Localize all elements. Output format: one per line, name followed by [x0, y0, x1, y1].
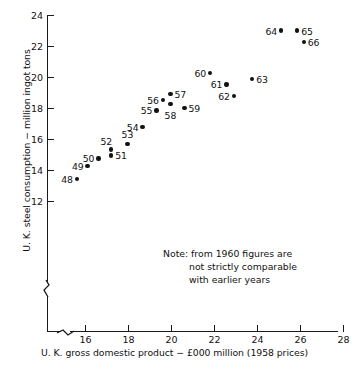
data-point — [85, 164, 89, 168]
data-point-label: 58 — [165, 110, 177, 121]
data-point-label: 56 — [147, 94, 159, 105]
data-point-label: 50 — [83, 153, 95, 164]
data-point-label: 60 — [195, 68, 207, 79]
data-point — [168, 92, 172, 96]
note-line-3: with earlier years — [163, 273, 297, 286]
x-tick — [171, 325, 172, 332]
x-tick-label: 18 — [116, 334, 142, 345]
x-tick-label: 26 — [288, 334, 314, 345]
x-tick-label: 20 — [159, 334, 185, 345]
data-point — [279, 28, 283, 32]
data-point — [182, 106, 186, 110]
x-tick — [257, 325, 258, 332]
data-point — [109, 153, 113, 157]
x-axis-label: U. K. gross domestic product − £000 mill… — [0, 347, 349, 358]
y-tick — [48, 77, 54, 78]
data-point-label: 66 — [308, 37, 320, 48]
y-tick — [48, 108, 54, 109]
y-axis-label: U. K. steel consumption − million ingot … — [21, 21, 32, 281]
data-point — [232, 94, 236, 98]
y-tick — [48, 201, 54, 202]
chart-note: Note: from 1960 figures are not strictly… — [163, 247, 297, 286]
y-axis-lower-stub — [47, 296, 48, 332]
data-point — [302, 40, 306, 44]
data-point-label: 65 — [301, 25, 313, 36]
data-point — [75, 177, 79, 181]
y-tick — [48, 170, 54, 171]
x-tick-label: 28 — [331, 334, 354, 345]
data-point — [140, 125, 144, 129]
data-point — [161, 98, 165, 102]
data-point-label: 57 — [174, 89, 186, 100]
data-point — [224, 82, 228, 86]
data-point-label: 61 — [211, 79, 223, 90]
y-tick — [48, 46, 54, 47]
data-point-label: 59 — [188, 102, 200, 113]
x-tick — [214, 325, 215, 332]
data-point — [295, 28, 299, 32]
data-point-label: 51 — [115, 150, 127, 161]
data-point-label: 64 — [266, 25, 278, 36]
data-point-label: 52 — [100, 136, 112, 147]
data-point — [96, 156, 100, 160]
y-tick — [48, 15, 54, 16]
y-tick — [48, 139, 54, 140]
note-line-1: Note: from 1960 figures are — [163, 248, 292, 259]
y-axis-line — [47, 15, 48, 282]
y-tick-label: 24 — [21, 10, 43, 21]
x-tick-label: 16 — [73, 334, 99, 345]
x-tick — [300, 325, 301, 332]
note-line-2: not strictly comparable — [163, 260, 297, 273]
x-tick-label: 22 — [202, 334, 228, 345]
data-point — [208, 71, 212, 75]
x-tick — [128, 325, 129, 332]
data-point — [168, 102, 172, 106]
x-tick-label: 24 — [245, 334, 271, 345]
data-point-label: 55 — [141, 105, 153, 116]
data-point-label: 48 — [61, 174, 73, 185]
x-axis-line — [70, 331, 338, 332]
data-point-label: 63 — [256, 74, 268, 85]
data-point — [125, 142, 129, 146]
y-axis-break-icon — [40, 279, 58, 299]
data-point — [154, 108, 158, 112]
x-tick — [343, 325, 344, 332]
data-point — [250, 77, 254, 81]
data-point — [109, 147, 113, 151]
data-point-label: 54 — [127, 121, 139, 132]
x-tick — [85, 325, 86, 332]
data-point-label: 62 — [218, 90, 230, 101]
